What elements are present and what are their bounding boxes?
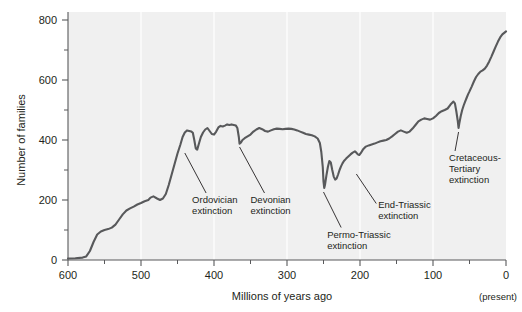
annotation-label-end-triassic: extinction (378, 210, 418, 221)
y-axis-title: Number of families (15, 94, 27, 186)
y-tick-label-800: 800 (39, 14, 57, 26)
present-note: (present) (479, 291, 517, 302)
x-tick-label-200: 200 (351, 269, 369, 281)
annotation-label-permo-triassic: Permo-Triassic (327, 229, 391, 240)
annotation-label-devonian: Devonian (251, 194, 291, 205)
annotation-label-cretaceous-tertiary: Tertiary (449, 163, 480, 174)
y-tick-label-200: 200 (39, 194, 57, 206)
x-tick-label-100: 100 (424, 269, 442, 281)
x-tick-label-0: 0 (503, 269, 509, 281)
annotation-label-permo-triassic: extinction (327, 240, 367, 251)
y-tick-label-600: 600 (39, 74, 57, 86)
annotation-label-ordovician: extinction (192, 205, 232, 216)
annotation-label-devonian: extinction (251, 205, 291, 216)
y-tick-label-0: 0 (51, 254, 57, 266)
x-axis-title: Millions of years ago (232, 290, 332, 302)
x-tick-label-400: 400 (205, 269, 223, 281)
y-tick-label-400: 400 (39, 134, 57, 146)
extinction-chart-figure: 0200400600800 6005004003002001000 Number… (0, 0, 522, 312)
x-tick-label-600: 600 (59, 269, 77, 281)
annotation-label-ordovician: Ordovician (192, 194, 237, 205)
x-tick-label-300: 300 (278, 269, 296, 281)
annotation-label-cretaceous-tertiary: Cretaceous- (449, 152, 501, 163)
x-tick-label-500: 500 (132, 269, 150, 281)
chart-canvas: 0200400600800 6005004003002001000 Number… (0, 0, 522, 312)
annotation-label-end-triassic: End-Triassic (378, 199, 431, 210)
annotation-label-cretaceous-tertiary: extinction (449, 174, 489, 185)
